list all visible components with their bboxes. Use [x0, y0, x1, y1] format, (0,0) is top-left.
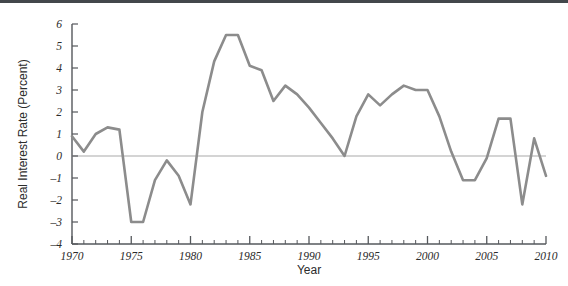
y-tick-label: 4 — [56, 62, 62, 74]
y-tick-label: 5 — [56, 40, 62, 52]
x-tick-label: 1970 — [61, 250, 84, 262]
y-tick-label: 0 — [56, 150, 62, 162]
x-axis-tick-labels: 197019751980198519901995200020052010 — [61, 250, 558, 262]
y-axis-tick-labels: –4–3–2–10123456 — [50, 18, 63, 250]
x-tick-label: 1995 — [357, 250, 380, 262]
y-axis-title: Real Interest Rate (Percent) — [16, 59, 30, 208]
y-tick-label: –4 — [50, 238, 63, 250]
y-tick-label: 1 — [56, 128, 62, 140]
x-axis-title: Year — [297, 263, 321, 277]
y-tick-label: 6 — [56, 18, 62, 30]
x-tick-label: 1985 — [238, 250, 261, 262]
chart-figure: –4–3–2–10123456 197019751980198519901995… — [0, 0, 568, 286]
real-interest-rate-line-chart: –4–3–2–10123456 197019751980198519901995… — [0, 0, 568, 286]
x-tick-label: 1990 — [298, 250, 321, 262]
y-tick-label: –2 — [50, 194, 63, 206]
y-tick-label: 3 — [55, 84, 62, 96]
y-tick-label: –3 — [50, 216, 63, 228]
y-axis-ticks — [72, 24, 78, 244]
x-tick-label: 1980 — [179, 250, 202, 262]
data-series-line — [72, 35, 546, 222]
x-tick-label: 1975 — [120, 250, 143, 262]
x-tick-label: 2000 — [416, 250, 439, 262]
y-tick-label: –1 — [50, 172, 63, 184]
x-tick-label: 2005 — [475, 250, 498, 262]
y-tick-label: 2 — [56, 106, 62, 118]
x-tick-label: 2010 — [535, 250, 558, 262]
